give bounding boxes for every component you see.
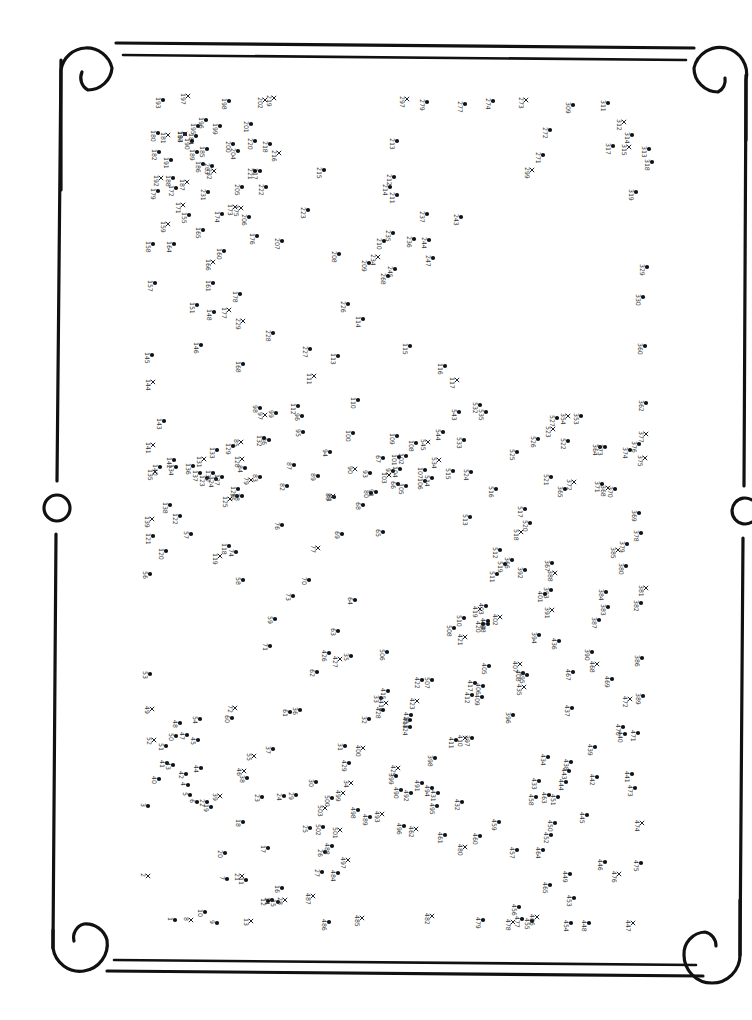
dot-point: 449	[562, 871, 572, 883]
point-number-label: 151	[189, 302, 196, 314]
dot-point: 452	[543, 832, 553, 844]
point-number-label: 64	[347, 597, 354, 605]
dot-point: 29	[288, 792, 298, 800]
dot-point: 232	[206, 168, 216, 180]
dot-point: 513	[462, 514, 472, 526]
dot-point: 74	[228, 549, 238, 557]
dot-point: 297	[399, 96, 409, 108]
dot-point: 370	[607, 486, 617, 498]
dot-point: 411	[448, 737, 458, 749]
point-number-label: 199	[212, 123, 219, 135]
point-number-label: 510	[456, 615, 463, 627]
dot-point: 61	[282, 709, 292, 717]
point-number-label: 198	[221, 98, 228, 110]
dot-point: 168	[235, 361, 245, 373]
point-number-label: 28	[277, 897, 284, 905]
dot-point: 216	[271, 150, 281, 162]
dot-point: 100	[345, 430, 355, 442]
point-number-label: 432	[454, 799, 461, 811]
dot-point: 458	[528, 794, 538, 806]
dot-point: 484	[330, 870, 340, 882]
point-number-label: 174	[214, 211, 221, 223]
point-number-label: 213	[389, 138, 396, 150]
scroll-frame	[44, 43, 752, 983]
point-number-label: 109	[389, 433, 396, 445]
dot-point: 9	[209, 920, 219, 925]
dot-point: 398	[427, 755, 437, 767]
point-number-label: 20	[217, 850, 224, 858]
dot-point: 187	[179, 179, 189, 191]
point-number-label: 99	[268, 410, 275, 418]
point-number-label: 376	[631, 441, 638, 453]
dot-point: 474	[634, 820, 644, 832]
point-number-label: 523	[545, 426, 552, 438]
dot-point: 379	[619, 541, 629, 553]
point-number-label: 525	[509, 449, 516, 461]
point-number-label: 522	[560, 438, 567, 450]
point-number-label: 181	[160, 132, 167, 144]
point-number-label: 204	[230, 148, 237, 160]
point-number-label: 362	[638, 400, 645, 412]
point-number-label: 93	[362, 470, 369, 478]
dot-point: 457	[509, 847, 519, 859]
point-number-label: 471	[630, 730, 637, 742]
dot-point: 121	[145, 533, 155, 545]
point-number-label: 479	[475, 917, 482, 929]
dot-point: 311	[600, 100, 610, 112]
bottom-left-curl	[53, 924, 107, 971]
point-number-label: 377	[638, 431, 645, 443]
dot-point: 318	[644, 159, 654, 171]
dot-point: 492	[403, 790, 413, 802]
dot-point: 207	[274, 238, 284, 250]
dot-point: 56	[142, 571, 152, 579]
point-number-label: 42	[178, 771, 185, 779]
dot-point: 104	[392, 466, 402, 478]
dot-point: 164	[166, 241, 176, 253]
point-number-label: 448	[581, 920, 588, 932]
dot-point: 482	[424, 913, 434, 925]
dot-point: 201	[243, 121, 253, 133]
dot-point: 52	[146, 737, 156, 745]
dot-point: 208	[331, 251, 341, 263]
point-number-label: 465	[542, 882, 549, 894]
point-number-label: 488	[324, 843, 331, 855]
point-number-label: 508	[446, 625, 453, 637]
point-number-label: 129	[225, 443, 232, 455]
point-number-label: 271	[535, 152, 542, 164]
point-number-label: 83	[252, 474, 259, 482]
point-number-label: 46	[236, 768, 243, 776]
point-number-label: 527	[549, 415, 556, 427]
point-number-label: 3	[140, 803, 147, 807]
dot-point: 189	[189, 149, 199, 161]
point-number-label: 182	[151, 149, 158, 161]
dot-point: 412	[464, 692, 474, 704]
point-number-label: 403	[478, 603, 485, 615]
dot-point: 502	[315, 824, 325, 836]
dot-point: 507	[424, 677, 434, 689]
point-number-label: 375	[637, 455, 644, 467]
dot-point: 196	[198, 117, 208, 129]
dot-point: 522	[560, 438, 570, 450]
point-number-label: 131	[196, 456, 203, 468]
dot-point: 165	[195, 227, 205, 239]
point-number-label: 533	[456, 437, 463, 449]
dot-point: 330	[635, 294, 645, 306]
point-number-label: 34	[343, 780, 350, 788]
dot-point: 116	[437, 363, 447, 375]
point-number-label: 211	[389, 192, 396, 204]
dot-point: 144	[145, 379, 155, 391]
point-number-label: 41	[159, 760, 166, 768]
dot-point: 60	[224, 715, 234, 723]
dot-point: 390	[584, 649, 594, 661]
dot-point: 392	[517, 567, 527, 579]
point-number-label: 145	[144, 352, 151, 364]
point-number-label: 244	[421, 237, 428, 249]
left-circle-ornament	[44, 495, 70, 521]
dot-point: 476	[611, 871, 621, 883]
point-number-label: 187	[179, 179, 186, 191]
dot-point: 527	[549, 415, 559, 427]
dot-point: 127	[214, 474, 224, 486]
point-number-label: 173	[227, 204, 234, 216]
point-number-label: 492	[403, 790, 410, 802]
point-number-label: 136	[185, 463, 192, 475]
